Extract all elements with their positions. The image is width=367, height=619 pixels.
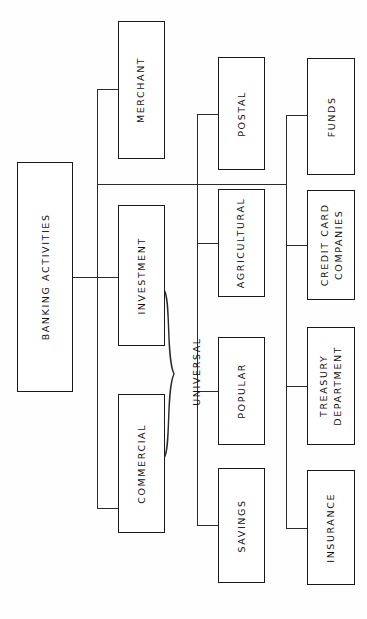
node-credit-card-companies[interactable]: CREDIT CARD COMPANIES xyxy=(307,190,355,300)
edge-level4-spine xyxy=(286,115,287,529)
edge-stub-savings xyxy=(197,525,218,526)
edge-stub-postal xyxy=(197,114,218,115)
edge-level3-spine xyxy=(197,114,198,526)
node-label-insurance: INSURANCE xyxy=(324,493,338,563)
edge-stub-credit-card-companies xyxy=(286,245,307,246)
node-label-commercial: COMMERCIAL xyxy=(135,424,149,504)
edge-trunk-horizontal xyxy=(97,184,287,185)
node-investment[interactable]: INVESTMENT xyxy=(118,205,165,346)
diagram-canvas: UNIVERSAL BANKING ACTIVITIES MERCHANT IN… xyxy=(0,0,367,619)
edge-stub-funds xyxy=(286,115,307,116)
node-label-investment: INVESTMENT xyxy=(135,237,149,314)
node-commercial[interactable]: COMMERCIAL xyxy=(118,394,165,533)
edge-stub-investment xyxy=(97,277,118,278)
node-label-banking-activities: BANKING ACTIVITIES xyxy=(38,214,52,341)
node-label-savings: SAVINGS xyxy=(235,499,249,552)
node-label-agricultural: AGRICULTURAL xyxy=(235,198,249,289)
edge-root-stub xyxy=(73,277,98,278)
node-label-treasury-department: TREASURY DEPARTMENT xyxy=(317,346,345,426)
universal-group-label-text: UNIVERSAL xyxy=(191,337,202,405)
node-agricultural[interactable]: AGRICULTURAL xyxy=(218,189,265,297)
edge-stub-agricultural xyxy=(197,243,218,244)
node-banking-activities[interactable]: BANKING ACTIVITIES xyxy=(17,162,73,392)
node-label-funds: FUNDS xyxy=(324,96,338,137)
edge-stub-treasury-department xyxy=(286,386,307,387)
node-funds[interactable]: FUNDS xyxy=(307,58,355,175)
node-label-postal: POSTAL xyxy=(235,91,249,137)
node-insurance[interactable]: INSURANCE xyxy=(307,470,355,585)
node-postal[interactable]: POSTAL xyxy=(218,57,265,170)
node-treasury-department[interactable]: TREASURY DEPARTMENT xyxy=(307,327,355,445)
edge-level2-spine xyxy=(97,89,98,509)
node-popular[interactable]: POPULAR xyxy=(218,337,265,445)
node-label-popular: POPULAR xyxy=(235,363,249,419)
node-merchant[interactable]: MERCHANT xyxy=(118,21,165,159)
edge-stub-merchant xyxy=(97,89,118,90)
node-label-credit-card-companies: CREDIT CARD COMPANIES xyxy=(317,204,345,287)
edge-stub-insurance xyxy=(286,528,307,529)
node-savings[interactable]: SAVINGS xyxy=(218,468,265,583)
node-label-merchant: MERCHANT xyxy=(135,57,149,123)
edge-stub-commercial xyxy=(97,508,118,509)
